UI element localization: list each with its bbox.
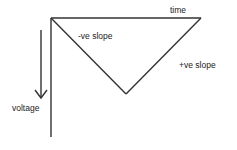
positive-slope-line	[126, 18, 201, 94]
negative-slope-label: -ve slope	[78, 31, 113, 41]
negative-slope-line	[51, 18, 126, 94]
slope-diagram: time -ve slope +ve slope voltage	[0, 0, 237, 150]
down-arrow-icon	[35, 30, 47, 98]
positive-slope-label: +ve slope	[179, 60, 216, 70]
time-axis-label: time	[170, 5, 186, 15]
voltage-axis-label: voltage	[12, 103, 40, 113]
